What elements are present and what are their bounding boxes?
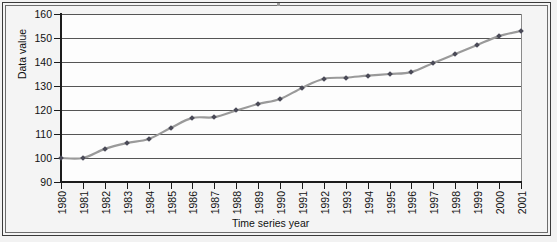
x-tick-label-1998: 1998 (450, 191, 462, 214)
y-tick-90 (54, 182, 60, 183)
x-tick-label-1992: 1992 (319, 191, 331, 214)
y-tick-140 (54, 62, 60, 63)
chart-figure: 90100110120130140150160 1980198119821983… (0, 0, 557, 242)
x-tick-label-1994: 1994 (363, 191, 375, 214)
x-tick-label-1995: 1995 (385, 191, 397, 214)
gridline-110 (61, 134, 521, 135)
x-tick-1986 (192, 183, 193, 189)
plot-right-edge (521, 14, 522, 182)
gridline-150 (61, 38, 521, 39)
x-tick-label-1987: 1987 (209, 191, 221, 214)
x-tick-label-1984: 1984 (144, 191, 156, 214)
x-tick-1997 (433, 183, 434, 189)
x-axis-title: Time series year (232, 217, 309, 229)
plot-area (61, 14, 521, 182)
x-tick-1996 (411, 183, 412, 189)
x-tick-1999 (477, 183, 478, 189)
y-axis-title: Data value (16, 4, 28, 104)
y-tick-label-90: 90 (22, 177, 52, 187)
gridline-130 (61, 86, 521, 87)
y-tick-label-100: 100 (22, 153, 52, 163)
x-tick-label-1988: 1988 (231, 191, 243, 214)
x-tick-1991 (302, 183, 303, 189)
x-tick-1981 (83, 183, 84, 189)
y-tick-label-110: 110 (22, 129, 52, 139)
x-tick-label-1981: 1981 (78, 191, 90, 214)
x-tick-label-1986: 1986 (187, 191, 199, 214)
x-tick-1987 (214, 183, 215, 189)
x-tick-1980 (61, 183, 62, 189)
x-tick-1988 (236, 183, 237, 189)
x-tick-label-2000: 2000 (494, 191, 506, 214)
y-tick-120 (54, 110, 60, 111)
gridline-100 (61, 158, 521, 159)
y-tick-160 (54, 14, 60, 15)
y-tick-130 (54, 86, 60, 87)
x-tick-2000 (499, 183, 500, 189)
x-tick-label-1980: 1980 (56, 191, 68, 214)
y-tick-110 (54, 134, 60, 135)
x-tick-label-1999: 1999 (472, 191, 484, 214)
x-tick-1993 (346, 183, 347, 189)
y-tick-label-120: 120 (22, 105, 52, 115)
gridline-120 (61, 110, 521, 111)
x-tick-1990 (280, 183, 281, 189)
x-tick-2001 (521, 183, 522, 189)
x-tick-1994 (368, 183, 369, 189)
x-tick-1983 (127, 183, 128, 189)
x-tick-label-1997: 1997 (428, 191, 440, 214)
x-tick-label-1993: 1993 (341, 191, 353, 214)
x-tick-1982 (105, 183, 106, 189)
title-artifact-mark (277, 3, 280, 6)
x-tick-label-1990: 1990 (275, 191, 287, 214)
x-tick-label-2001: 2001 (516, 191, 528, 214)
y-tick-150 (54, 38, 60, 39)
x-tick-1998 (455, 183, 456, 189)
x-tick-1985 (171, 183, 172, 189)
x-tick-label-1989: 1989 (253, 191, 265, 214)
x-tick-label-1983: 1983 (122, 191, 134, 214)
gridline-140 (61, 62, 521, 63)
x-tick-1995 (390, 183, 391, 189)
x-tick-1984 (149, 183, 150, 189)
x-tick-1992 (324, 183, 325, 189)
x-tick-label-1982: 1982 (100, 191, 112, 214)
x-tick-label-1996: 1996 (406, 191, 418, 214)
x-tick-label-1991: 1991 (297, 191, 309, 214)
x-axis-line (60, 181, 522, 183)
x-tick-1989 (258, 183, 259, 189)
gridline-160 (61, 14, 521, 15)
x-tick-label-1985: 1985 (166, 191, 178, 214)
